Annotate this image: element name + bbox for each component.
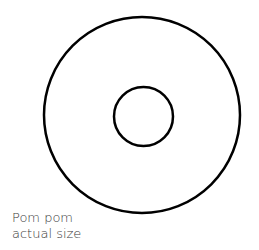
outer-circle [44,17,240,213]
caption-line-2: actual size [12,226,81,242]
caption-line-1: Pom pom [12,210,81,226]
caption: Pom pom actual size [12,210,81,242]
inner-circle [114,87,173,146]
